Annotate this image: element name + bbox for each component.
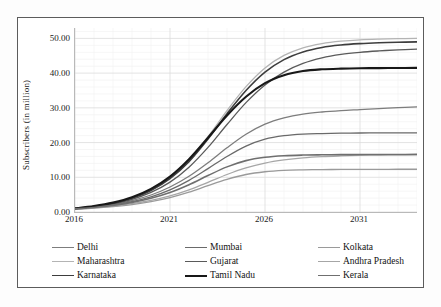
x-tick-label: 2021 <box>160 214 178 224</box>
legend-label: Maharashtra <box>77 255 124 268</box>
y-tick-label: 10.00 <box>50 172 70 182</box>
legend-swatch-line-icon <box>318 261 340 262</box>
y-tick-label: 50.00 <box>50 33 70 43</box>
x-tick-label: 2031 <box>350 214 368 224</box>
legend-swatch-line-icon <box>52 261 74 262</box>
chart-figure: Subscribers (in million) 0.0010.0020.003… <box>0 0 441 307</box>
legend-item-mumbai[interactable]: Mumbai <box>185 241 242 254</box>
legend-swatch-line-icon <box>318 275 340 276</box>
chart-legend: DelhiMumbaiKolkataMaharashtraGujaratAndh… <box>52 241 412 283</box>
legend-label: Andhra Pradesh <box>343 255 404 268</box>
legend-label: Karnataka <box>77 269 116 282</box>
legend-row: DelhiMumbaiKolkata <box>52 241 412 254</box>
legend-swatch-line-icon <box>52 247 74 248</box>
legend-item-karnataka[interactable]: Karnataka <box>52 269 116 282</box>
legend-label: Tamil Nadu <box>210 269 255 282</box>
legend-swatch-line-icon <box>185 247 207 248</box>
legend-item-tamil-nadu[interactable]: Tamil Nadu <box>185 269 255 282</box>
legend-item-andhra-pradesh[interactable]: Andhra Pradesh <box>318 255 404 268</box>
x-tick-label: 2026 <box>255 214 273 224</box>
legend-swatch-line-icon <box>52 275 74 276</box>
legend-label: Kerala <box>343 269 368 282</box>
x-axis-tick-labels: 2016202120262031 <box>74 214 416 228</box>
legend-item-gujarat[interactable]: Gujarat <box>185 255 239 268</box>
y-axis-tick-labels: 0.0010.0020.0030.0040.0050.00 <box>36 28 70 212</box>
legend-swatch-line-icon <box>318 247 340 248</box>
x-tick-label: 2016 <box>65 214 83 224</box>
legend-label: Kolkata <box>343 241 373 254</box>
legend-row: KarnatakaTamil NaduKerala <box>52 269 412 282</box>
plot-area <box>74 28 417 213</box>
y-axis-label: Subscribers (in million) <box>21 60 35 190</box>
y-tick-label: 40.00 <box>50 68 70 78</box>
legend-label: Mumbai <box>210 241 242 254</box>
legend-row: MaharashtraGujaratAndhra Pradesh <box>52 255 412 268</box>
legend-item-delhi[interactable]: Delhi <box>52 241 98 254</box>
legend-item-kolkata[interactable]: Kolkata <box>318 241 373 254</box>
y-tick-label: 30.00 <box>50 103 70 113</box>
legend-item-maharashtra[interactable]: Maharashtra <box>52 255 124 268</box>
series-lines <box>75 28 417 212</box>
y-tick-label: 20.00 <box>50 138 70 148</box>
legend-item-kerala[interactable]: Kerala <box>318 269 368 282</box>
legend-label: Gujarat <box>210 255 239 268</box>
legend-swatch-line-icon <box>185 275 207 277</box>
legend-label: Delhi <box>77 241 98 254</box>
legend-swatch-line-icon <box>185 261 207 262</box>
